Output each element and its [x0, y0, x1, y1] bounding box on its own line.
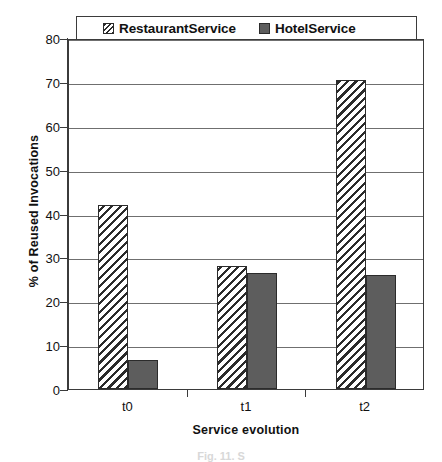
legend: RestaurantService HotelService — [76, 16, 417, 40]
bar-t2-restaurantservice — [336, 80, 366, 389]
bar-t1-restaurantservice — [217, 266, 247, 389]
y-tick-mark-70 — [60, 83, 68, 84]
plot-area — [68, 39, 424, 390]
y-tick-label-30: 30 — [20, 252, 60, 265]
x-tick-label-t2: t2 — [335, 399, 395, 414]
y-tick-mark-0 — [60, 390, 68, 391]
hatched-swatch-icon — [103, 23, 114, 34]
solid-swatch-icon — [259, 23, 270, 34]
legend-item-hotelservice: HotelService — [259, 20, 356, 36]
figure-caption: Fig. 11. S — [0, 450, 442, 462]
legend-label-hotelservice: HotelService — [275, 21, 356, 36]
y-tick-label-20: 20 — [20, 296, 60, 309]
y-tick-mark-50 — [60, 171, 68, 172]
figure-bar-chart: % of Reused Invocations 0102030405060708… — [0, 0, 442, 462]
y-tick-label-10: 10 — [20, 340, 60, 353]
y-tick-label-70: 70 — [20, 76, 60, 89]
gridline-70 — [69, 84, 423, 85]
bar-t0-restaurantservice — [98, 205, 128, 389]
bar-t2-hotelservice — [366, 275, 396, 389]
legend-item-restaurantservice: RestaurantService — [103, 20, 236, 36]
y-tick-mark-80 — [60, 39, 68, 40]
bar-t1-hotelservice — [247, 273, 277, 389]
y-tick-mark-60 — [60, 127, 68, 128]
x-tick-mark-2 — [305, 390, 306, 397]
gridline-60 — [69, 128, 423, 129]
y-tick-mark-10 — [60, 346, 68, 347]
y-tick-label-50: 50 — [20, 164, 60, 177]
x-tick-mark-1 — [187, 390, 188, 397]
gridline-50 — [69, 172, 423, 173]
x-tick-label-t1: t1 — [216, 399, 276, 414]
y-tick-mark-20 — [60, 302, 68, 303]
x-axis-title: Service evolution — [68, 423, 424, 437]
x-tick-label-t0: t0 — [97, 399, 157, 414]
y-tick-label-40: 40 — [20, 208, 60, 221]
bar-t0-hotelservice — [128, 360, 158, 389]
y-tick-mark-40 — [60, 215, 68, 216]
y-tick-label-80: 80 — [20, 33, 60, 46]
y-tick-label-60: 60 — [20, 120, 60, 133]
y-tick-mark-30 — [60, 258, 68, 259]
gridline-80 — [69, 40, 423, 41]
y-tick-label-0: 0 — [20, 384, 60, 397]
legend-label-restaurantservice: RestaurantService — [119, 21, 236, 36]
